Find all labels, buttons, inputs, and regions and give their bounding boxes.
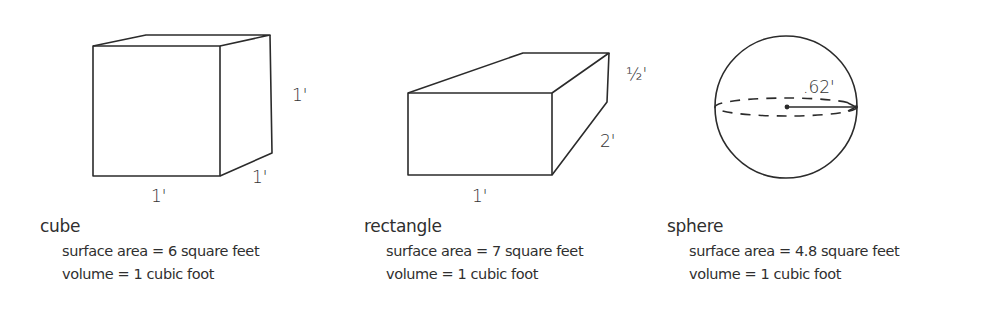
sphere-caption: sphere surface area = 4.8 square feet vo… [667, 216, 899, 286]
rectangle-drawing [408, 53, 609, 175]
rectangle-name: rectangle [364, 216, 583, 236]
cube-front-face [93, 46, 220, 176]
cube-surface-area: surface area = 6 square feet [62, 240, 259, 263]
cube-depth-label: 1' [252, 167, 268, 187]
rectangle-volume: volume = 1 cubic foot [386, 263, 583, 286]
sphere-radius-label: .62' [803, 77, 835, 97]
cube-name: cube [40, 216, 259, 236]
cube-side-face [220, 35, 272, 176]
rectangle-width-label: 1' [472, 186, 488, 206]
sphere-name: sphere [667, 216, 899, 236]
sphere-center-dot [785, 105, 790, 110]
cube-drawing [93, 35, 272, 176]
rectangle-caption: rectangle surface area = 7 square feet v… [364, 216, 583, 286]
rectangle-height-label: ½' [626, 64, 647, 84]
cube-width-label: 1' [151, 186, 167, 206]
cube-height-label: 1' [292, 85, 308, 105]
rectangle-top-face [408, 53, 609, 93]
cube-caption: cube surface area = 6 square feet volume… [40, 216, 259, 286]
cube-volume: volume = 1 cubic foot [62, 263, 259, 286]
rectangle-surface-area: surface area = 7 square feet [386, 240, 583, 263]
rectangle-depth-label: 2' [600, 131, 616, 151]
rectangle-side-face [552, 53, 609, 175]
sphere-surface-area: surface area = 4.8 square feet [689, 240, 899, 263]
sphere-volume: volume = 1 cubic foot [689, 263, 899, 286]
cube-top-face [93, 35, 270, 46]
rectangle-front-face [408, 93, 552, 175]
